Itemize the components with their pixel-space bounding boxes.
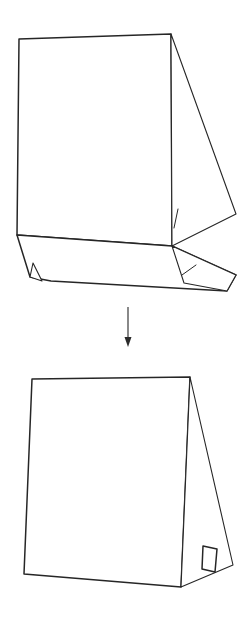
step-arrow-head-icon	[125, 337, 132, 347]
upper-shape-group	[17, 34, 236, 291]
folding-steps-diagram	[0, 0, 251, 620]
upper-front-panel	[17, 34, 172, 246]
lower-front-panel	[24, 377, 190, 587]
diagram-canvas: Folding step diagram Two-step line drawi…	[0, 0, 251, 620]
step-arrow-group	[125, 307, 132, 347]
upper-right-side-panel	[171, 34, 236, 246]
lower-shape-group	[24, 377, 233, 587]
lower-locking-tab	[202, 546, 217, 572]
